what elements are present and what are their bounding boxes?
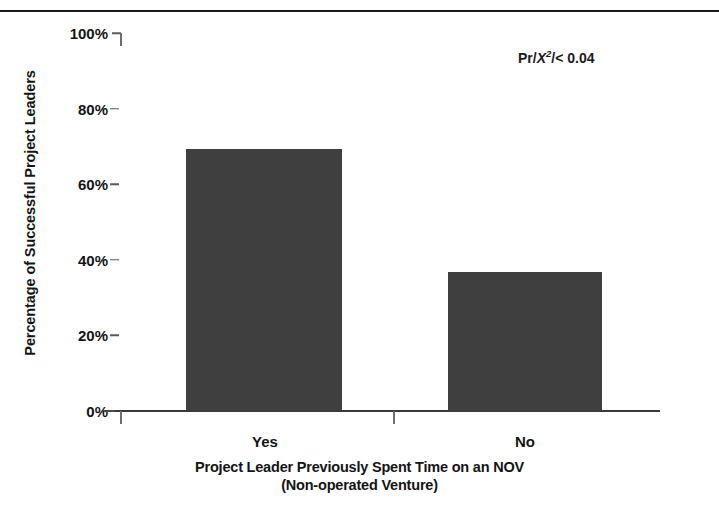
x-axis-title: Project Leader Previously Spent Time on … xyxy=(0,457,719,477)
y-tick-label-60: 60% xyxy=(36,176,108,193)
x-tick-mark-origin xyxy=(120,411,122,424)
y-axis-tick-labels: 100% 80% 60% 40% 20% 0% xyxy=(0,0,108,519)
y-tick-label-40: 40% xyxy=(36,251,108,268)
y-tick-label-0: 0% xyxy=(36,403,108,420)
x-category-label-no: No xyxy=(515,433,535,450)
chart-figure: Percentage of Successful Project Leaders… xyxy=(0,0,719,519)
x-axis-subtitle: (Non-operated Venture) xyxy=(0,477,719,493)
x-category-label-yes: Yes xyxy=(252,433,278,450)
y-tick-label-20: 20% xyxy=(36,327,108,344)
y-tick-label-100: 100% xyxy=(36,25,108,42)
annotation-symbol: X xyxy=(537,50,546,66)
annotation-prefix: Pr/ xyxy=(518,50,537,66)
plot-area xyxy=(115,33,660,411)
bar-yes xyxy=(186,149,342,411)
x-tick-mark-category-divider xyxy=(393,411,395,424)
significance-annotation: Pr/X2/< 0.04 xyxy=(518,48,595,66)
bar-no xyxy=(448,272,602,411)
y-tick-label-80: 80% xyxy=(36,100,108,117)
annotation-suffix: /< 0.04 xyxy=(551,50,594,66)
